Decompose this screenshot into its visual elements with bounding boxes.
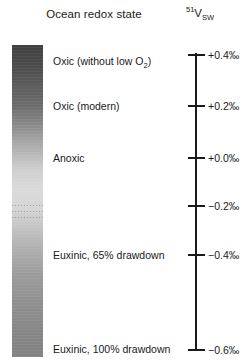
gradient-dotted-band-1 [12, 205, 43, 206]
redox-gradient-bar [12, 45, 43, 357]
redox-label-oxic-modern: Oxic (modern) [53, 101, 120, 112]
gradient-dotted-band-2 [12, 211, 43, 212]
axis-title-subscript: SW [202, 13, 214, 22]
ocean-redox-figure: Ocean redox state 51VSW Oxic (without lo… [0, 0, 247, 363]
axis-tick-label-minus-0-4: −0.4‰ [208, 250, 239, 261]
axis-column-title: 51VSW [186, 7, 214, 19]
axis-title-symbol: V [194, 7, 202, 19]
axis-tick-label-plus-0-2: +0.2‰ [208, 101, 239, 112]
page-title: Ocean redox state [14, 8, 174, 20]
axis-tick-label-minus-0-2: −0.2‰ [208, 201, 239, 212]
gradient-dotted-band-3 [12, 217, 43, 218]
axis-tick-mark-4 [188, 254, 205, 256]
axis-tick-mark-0 [188, 54, 205, 56]
isotope-axis-line [195, 53, 197, 351]
axis-tick-label-plus-0-0: +0.0‰ [208, 153, 239, 164]
redox-label-anoxic: Anoxic [53, 153, 85, 164]
axis-tick-mark-5 [188, 349, 205, 351]
redox-label-oxic-without-low-o2: Oxic (without low O2) [53, 56, 151, 67]
redox-label-tail: ) [148, 55, 152, 67]
redox-label-euxinic-100: Euxinic, 100% drawdown [53, 344, 170, 355]
axis-tick-mark-3 [188, 205, 205, 207]
axis-tick-mark-2 [188, 157, 205, 159]
redox-label-euxinic-65: Euxinic, 65% drawdown [53, 250, 164, 261]
gradient-texture-overlay [12, 45, 43, 357]
axis-tick-mark-1 [188, 105, 205, 107]
axis-tick-label-minus-0-6: −0.6‰ [208, 345, 239, 356]
axis-tick-label-plus-0-4: +0.4‰ [208, 50, 239, 61]
redox-label-text: Oxic (without low O [53, 55, 143, 67]
